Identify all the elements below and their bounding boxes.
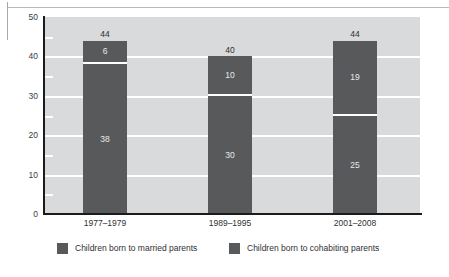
y-tick-label-30: 30 (12, 92, 38, 101)
legend-label-cohabiting: Children born to cohabiting parents (247, 244, 379, 253)
bar-segment-married: 38 (83, 64, 127, 214)
x-axis-line (43, 213, 422, 215)
legend-swatch-icon (229, 243, 240, 254)
x-tick-label-1989-1995: 1989–1995 (175, 219, 285, 228)
legend-item-cohabiting: Children born to cohabiting parents (229, 243, 379, 254)
bar-segment-married: 30 (208, 96, 252, 214)
bar-1989-1995: 10 30 (208, 56, 252, 214)
minor-tick-15 (45, 155, 53, 157)
chart-legend: Children born to married parents Childre… (0, 243, 449, 259)
y-axis-labels: 50 40 30 20 10 0 (8, 0, 38, 277)
bar-segment-cohabiting: 19 (333, 41, 377, 116)
chart-page: 6 38 10 30 19 25 (0, 0, 449, 277)
stacked-bar-chart: 6 38 10 30 19 25 (0, 0, 449, 277)
segment-value-married: 25 (350, 161, 359, 170)
y-tick-label-10: 10 (12, 171, 38, 180)
minor-tick-5 (45, 194, 53, 196)
bar-2001-2008: 19 25 (333, 41, 377, 214)
minor-tick-25 (45, 116, 53, 118)
y-tick-label-0: 0 (12, 210, 38, 219)
y-tick-label-40: 40 (12, 52, 38, 61)
segment-value-married: 38 (100, 135, 109, 144)
minor-tick-35 (45, 76, 53, 78)
x-tick-label-1977-1979: 1977–1979 (50, 219, 160, 228)
segment-value-cohabiting: 19 (350, 73, 359, 82)
bar-total-2001-2008: 44 (325, 30, 385, 39)
segment-value-married: 30 (225, 151, 234, 160)
minor-tick-45 (45, 37, 53, 39)
bar-1977-1979: 6 38 (83, 41, 127, 214)
x-tick-label-2001-2008: 2001–2008 (300, 219, 410, 228)
bar-segment-cohabiting: 6 (83, 41, 127, 65)
bar-segment-cohabiting: 10 (208, 56, 252, 95)
y-tick-label-20: 20 (12, 131, 38, 140)
y-axis-line (43, 16, 45, 215)
bar-total-1977-1979: 44 (75, 30, 135, 39)
bar-total-1989-1995: 40 (200, 46, 260, 55)
bar-segment-married: 25 (333, 116, 377, 215)
y-tick-label-50: 50 (12, 13, 38, 22)
legend-item-married: Children born to married parents (57, 243, 197, 254)
segment-value-cohabiting: 6 (103, 47, 108, 56)
legend-swatch-icon (57, 243, 68, 254)
legend-label-married: Children born to married parents (75, 244, 197, 253)
segment-value-cohabiting: 10 (225, 71, 234, 80)
